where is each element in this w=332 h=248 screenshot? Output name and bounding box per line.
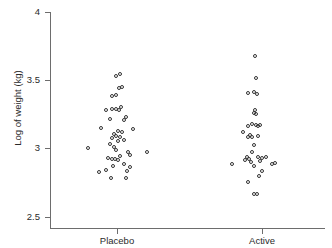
data-point-active [256,134,260,138]
y-tick-label: 3 [35,143,40,153]
data-point-active [270,162,274,166]
y-tick-mark [45,80,50,81]
data-point-active [256,124,260,128]
data-point-placebo [113,157,117,161]
data-point-active [246,180,250,184]
y-tick-label: 2.5 [27,212,40,222]
data-point-active [258,123,262,127]
data-point-active [256,155,260,159]
data-point-placebo [112,145,116,149]
data-point-active [247,157,251,161]
data-point-active [260,169,264,173]
data-point-active [246,91,250,95]
data-point-active [252,143,256,147]
data-point-placebo [118,154,122,158]
data-point-active [243,158,247,162]
y-tick-mark [45,148,50,149]
data-point-active [252,192,256,196]
data-point-placebo [108,142,112,146]
data-point-active [246,124,250,128]
data-point-placebo [120,130,124,134]
data-point-active [273,161,277,165]
data-point-active [260,156,264,160]
data-point-active [250,135,254,139]
data-point-active [246,135,250,139]
data-point-active [253,108,257,112]
data-point-active [253,54,257,58]
data-point-placebo [114,93,118,97]
x-axis-line [50,228,325,229]
data-point-placebo [104,108,108,112]
data-point-placebo [116,158,120,162]
scatter-plot-figure: 43.532.5 PlaceboActive Log of weight (kg… [0,0,332,248]
y-axis-line [50,12,51,229]
y-tick-mark [45,217,50,218]
data-point-placebo [116,139,120,143]
data-point-placebo [114,148,118,152]
x-tick-label-active: Active [249,236,275,246]
data-point-placebo [145,150,149,154]
data-point-placebo [106,156,110,160]
x-tick-mark [262,229,263,234]
data-point-active [250,122,254,126]
data-point-active [255,92,259,96]
data-point-placebo [128,165,132,169]
data-point-placebo [126,150,130,154]
y-axis-title: Log of weight (kg) [12,28,23,188]
data-point-active [249,160,253,164]
data-point-placebo [124,176,128,180]
data-point-placebo [110,107,114,111]
y-tick-label: 3.5 [27,75,40,85]
data-point-placebo [120,85,124,89]
data-point-active [250,150,254,154]
data-point-active [254,123,258,127]
data-point-active [241,130,245,134]
data-point-placebo [118,72,122,76]
data-point-placebo [119,105,123,109]
data-point-placebo [114,134,118,138]
data-point-active [245,155,249,159]
data-point-placebo [131,127,135,131]
data-point-active [258,159,262,163]
data-point-active [252,90,256,94]
data-point-placebo [124,115,128,119]
data-point-placebo [116,129,120,133]
data-point-placebo [97,170,101,174]
data-point-placebo [108,117,112,121]
data-point-placebo [86,146,90,150]
data-point-placebo [122,118,126,122]
data-point-placebo [104,168,108,172]
y-tick-mark [45,12,50,13]
data-point-placebo [122,138,126,142]
data-point-placebo [118,135,122,139]
data-point-placebo [110,94,114,98]
x-tick-label-placebo: Placebo [100,236,134,246]
data-point-placebo [114,107,118,111]
data-point-placebo [117,108,121,112]
data-point-active [230,162,234,166]
y-tick-label: 4 [35,7,40,17]
data-point-placebo [114,74,118,78]
data-point-placebo [112,132,116,136]
data-point-active [248,133,252,137]
data-point-active [255,192,259,196]
data-point-placebo [99,126,103,130]
data-point-placebo [117,86,121,90]
data-point-active [254,76,258,80]
data-point-active [264,155,268,159]
data-point-placebo [111,164,115,168]
data-point-active [257,174,261,178]
data-point-active [252,164,256,168]
data-point-placebo [122,162,126,166]
data-point-active [252,111,256,115]
x-tick-mark [117,229,118,234]
data-point-placebo [110,157,114,161]
data-point-placebo [109,176,113,180]
data-point-placebo [125,169,129,173]
data-point-placebo [110,136,114,140]
data-point-placebo [128,153,132,157]
data-point-active [254,112,258,116]
